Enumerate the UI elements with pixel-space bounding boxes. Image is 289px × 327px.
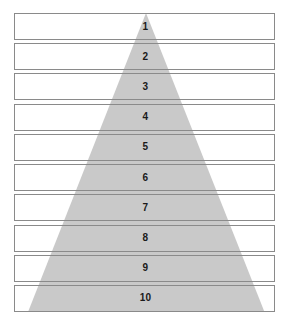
pyramid-level-6[interactable]: 6 — [14, 164, 275, 191]
pyramid-level-label: 6 — [15, 165, 276, 190]
pyramid-level-label: 5 — [15, 135, 276, 160]
pyramid-level-label: 4 — [15, 105, 276, 130]
pyramid-level-4[interactable]: 4 — [14, 104, 275, 131]
pyramid-level-8[interactable]: 8 — [14, 225, 275, 252]
pyramid-levels-stack: 1 2 3 4 5 6 7 8 9 10 — [14, 13, 275, 312]
pyramid-level-label: 3 — [15, 74, 276, 99]
pyramid-level-5[interactable]: 5 — [14, 134, 275, 161]
pyramid-level-9[interactable]: 9 — [14, 255, 275, 282]
pyramid-level-label: 8 — [15, 226, 276, 251]
pyramid-level-label: 10 — [15, 286, 276, 311]
pyramid-level-label: 7 — [15, 195, 276, 220]
pyramid-diagram: 1 2 3 4 5 6 7 8 9 10 — [0, 0, 289, 327]
pyramid-level-7[interactable]: 7 — [14, 194, 275, 221]
pyramid-level-1[interactable]: 1 — [14, 13, 275, 40]
pyramid-level-label: 9 — [15, 256, 276, 281]
pyramid-level-label: 2 — [15, 44, 276, 69]
pyramid-level-10[interactable]: 10 — [14, 285, 275, 312]
pyramid-level-3[interactable]: 3 — [14, 73, 275, 100]
pyramid-level-label: 1 — [15, 14, 276, 39]
pyramid-level-2[interactable]: 2 — [14, 43, 275, 70]
